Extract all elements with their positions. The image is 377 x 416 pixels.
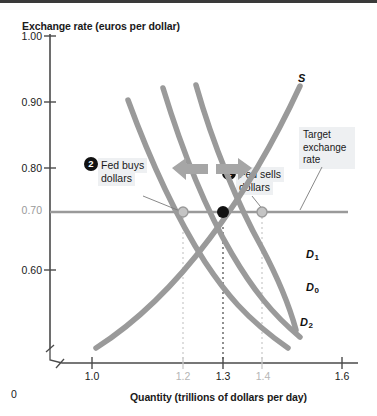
leader-line-target-rate — [300, 167, 322, 210]
chart-plot-svg — [0, 0, 377, 416]
axis-break-marker — [46, 345, 64, 368]
point-fed-sells — [257, 207, 267, 217]
point-equilibrium — [217, 206, 229, 218]
exchange-rate-chart: Exchange rate (euros per dollar) Quantit… — [0, 0, 377, 416]
point-fed-buys — [178, 207, 188, 217]
demand-curve-d1 — [128, 100, 288, 348]
